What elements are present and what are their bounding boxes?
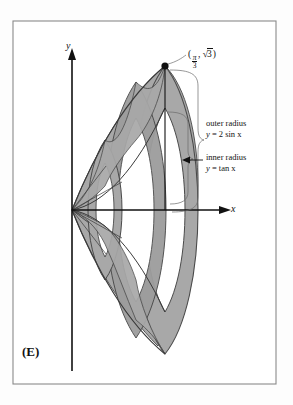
point-coordinate-label: (π3, √3) bbox=[188, 48, 216, 70]
inner-eq-rel: = bbox=[210, 163, 219, 173]
marked-point-dot bbox=[161, 62, 168, 69]
inner-radius-equation: y = tan x bbox=[206, 163, 246, 174]
inner-radius-callout: inner radius y = tan x bbox=[206, 152, 246, 175]
solid-of-revolution-diagram bbox=[0, 0, 293, 405]
outer-radius-title: outer radius bbox=[206, 118, 246, 129]
outer-radius-equation: y = 2 sin x bbox=[206, 129, 246, 140]
fraction-denominator: 3 bbox=[192, 61, 198, 70]
paren-close: ) bbox=[213, 49, 216, 59]
x-axis-label: x bbox=[231, 203, 235, 214]
outer-eq-rel: = bbox=[210, 129, 219, 139]
y-axis-label: y bbox=[66, 40, 70, 51]
choice-label: (E) bbox=[22, 345, 39, 359]
outer-radius-callout: outer radius y = 2 sin x bbox=[206, 118, 246, 141]
inner-radius-title: inner radius bbox=[206, 152, 246, 163]
figure-container: y x (E) (π3, √3) outer radius y = 2 sin … bbox=[0, 0, 293, 405]
outer-eq-rhs: 2 sin x bbox=[219, 129, 242, 139]
fraction-numerator: π bbox=[192, 54, 198, 62]
pi-over-three-fraction: π3 bbox=[192, 54, 198, 70]
inner-eq-rhs: tan x bbox=[219, 163, 236, 173]
